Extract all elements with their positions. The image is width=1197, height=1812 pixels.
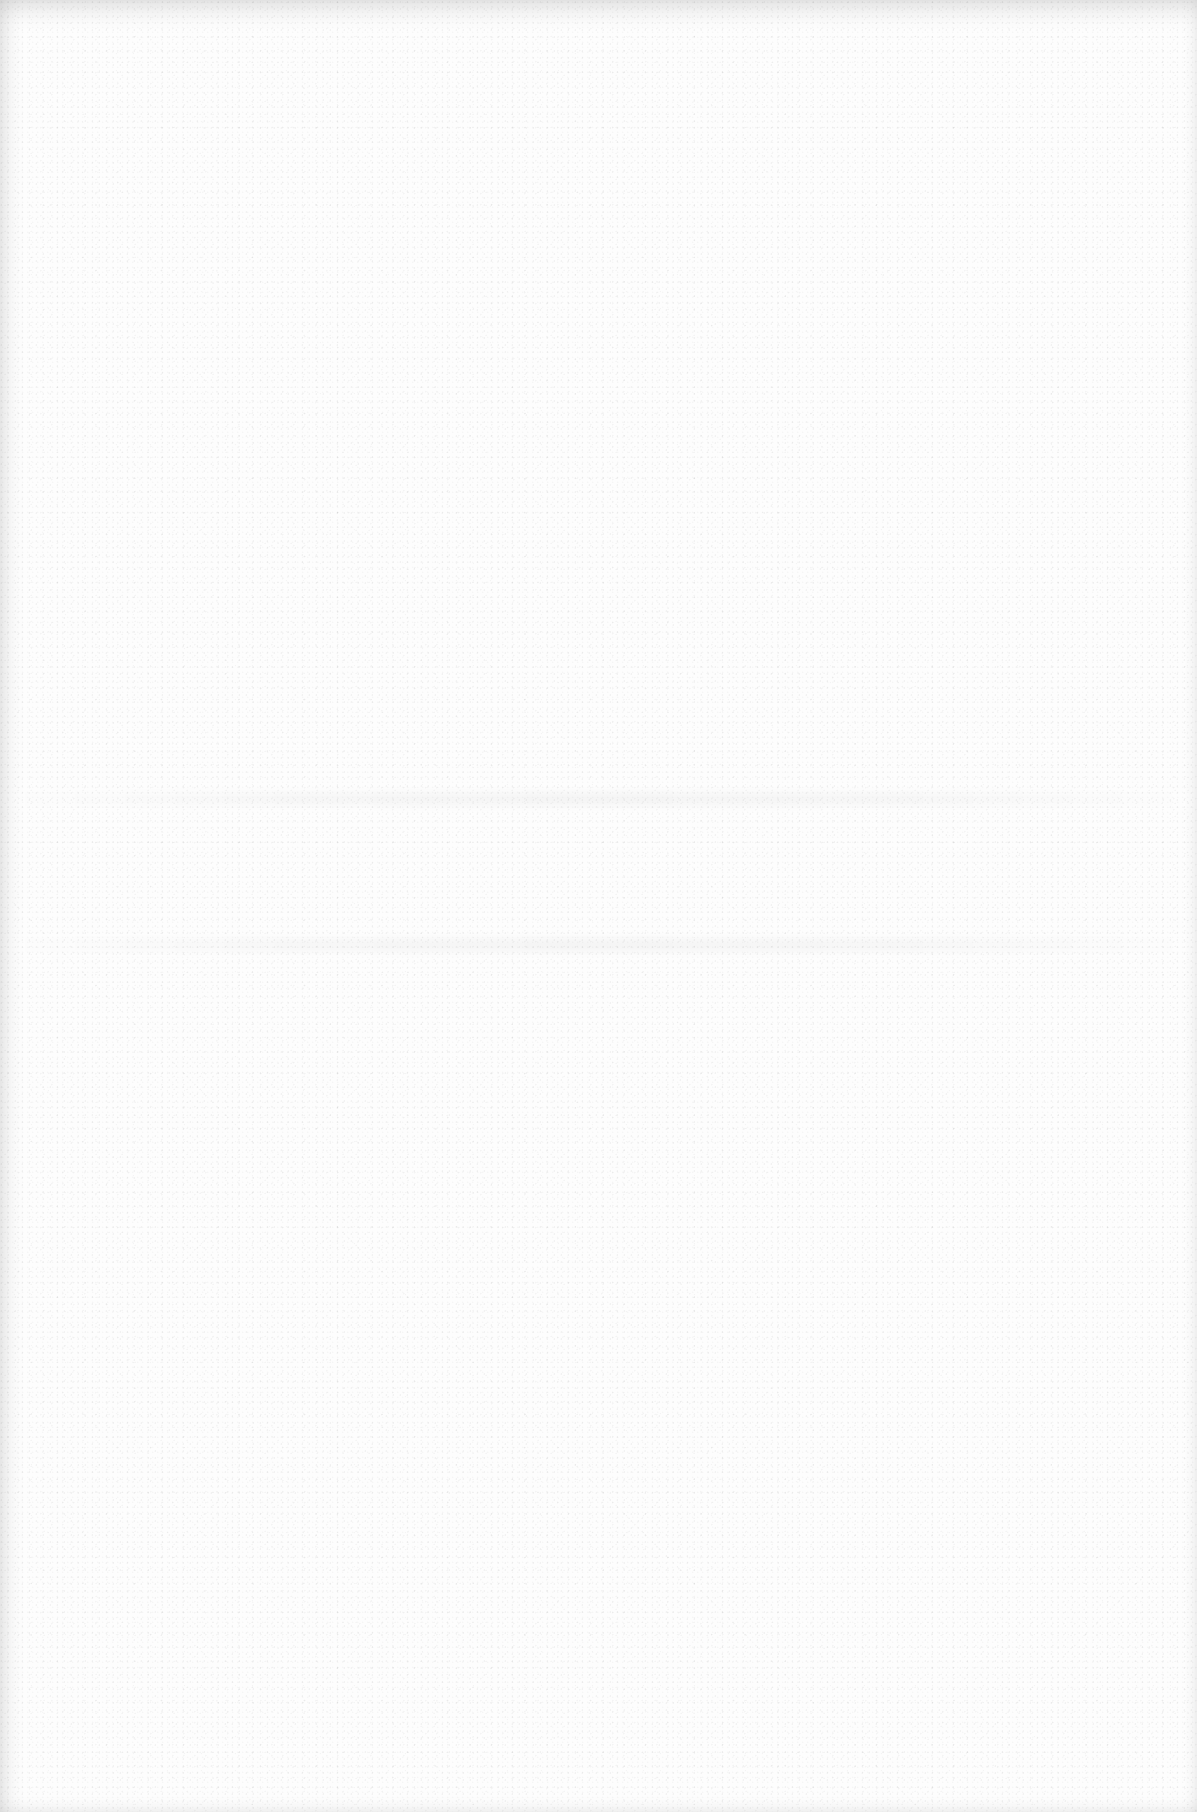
- paper-texture: [0, 0, 1197, 1812]
- blank-paper-page: [0, 0, 1197, 1812]
- show-through-smudge: [0, 792, 1197, 806]
- show-through-smudge: [0, 938, 1197, 952]
